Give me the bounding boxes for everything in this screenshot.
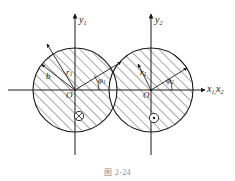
x-axis-label: x1,x2 [207, 84, 224, 94]
r1-label: r1 [66, 68, 72, 77]
right-origin-label: O [143, 91, 150, 100]
y1-axis-label: y1 [79, 15, 87, 25]
b-distance-label: b [46, 72, 51, 81]
y2-axis-label: y2 [155, 15, 163, 25]
figure-canvas: y1 y2 x1,x2 b r1 φ1 O r2 φ2 O 图 2-24 [0, 0, 235, 181]
phi2-label: φ2 [166, 76, 174, 85]
current-out-of-page-icon [149, 113, 158, 122]
left-origin-label: O [66, 91, 73, 100]
current-into-page-icon [74, 111, 83, 120]
figure-drawing [0, 0, 235, 181]
figure-caption: 图 2-24 [0, 166, 235, 177]
phi1-label: φ1 [98, 76, 106, 85]
r2-label: r2 [140, 68, 146, 77]
